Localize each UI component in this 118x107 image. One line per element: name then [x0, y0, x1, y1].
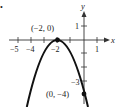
x-axis: x −5 −4 −2 1 [9, 35, 115, 54]
y-tick-label: −3 [71, 78, 80, 87]
y-intercept-label: (0, −4) [46, 89, 69, 99]
y-axis-label: y [80, 1, 85, 11]
item-marker: • [0, 3, 3, 12]
x-tick-label: −2 [51, 45, 60, 54]
x-axis-arrow-icon [104, 38, 110, 43]
vertex-label: (−2, 0) [31, 23, 54, 33]
parabola-graph: • x −5 −4 −2 1 y 1 −3 (−2, 0) (0, −4) [0, 0, 118, 107]
y-axis-arrow-icon [82, 11, 87, 17]
x-tick-label: −5 [10, 45, 19, 54]
vertex-point [55, 38, 60, 43]
y-axis: y 1 −3 [71, 1, 87, 104]
y-intercept-point [82, 92, 87, 97]
y-tick-label: 1 [75, 22, 79, 31]
x-tick-label: −4 [26, 45, 35, 54]
x-axis-label: x [110, 35, 115, 45]
x-tick-label: 1 [95, 45, 99, 54]
